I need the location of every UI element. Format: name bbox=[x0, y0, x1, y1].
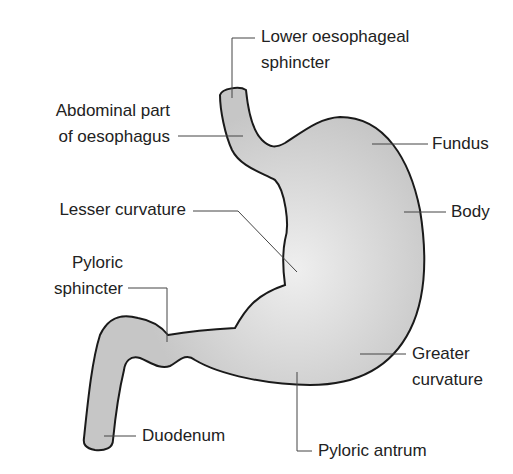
label-line: Duodenum bbox=[142, 423, 225, 449]
label-line: Abdominal part bbox=[56, 98, 170, 124]
label-line: curvature bbox=[412, 367, 483, 393]
label-line: sphincter bbox=[54, 276, 123, 302]
label-line: Lesser curvature bbox=[59, 197, 186, 223]
label-body: Body bbox=[451, 199, 490, 225]
stomach-diagram bbox=[0, 0, 513, 474]
label-lower-oesophageal-sphincter: Lower oesophageal sphincter bbox=[261, 24, 409, 76]
label-lesser-curvature: Lesser curvature bbox=[59, 197, 186, 223]
label-abdominal-oesophagus: Abdominal part of oesophagus bbox=[56, 98, 170, 150]
label-line: Lower oesophageal bbox=[261, 24, 409, 50]
label-line: Fundus bbox=[432, 131, 489, 157]
label-greater-curvature: Greater curvature bbox=[412, 341, 483, 393]
label-pyloric-antrum: Pyloric antrum bbox=[318, 438, 427, 464]
label-fundus: Fundus bbox=[432, 131, 489, 157]
label-line: Pyloric antrum bbox=[318, 438, 427, 464]
label-line: of oesophagus bbox=[56, 124, 170, 150]
label-line: Body bbox=[451, 199, 490, 225]
label-duodenum: Duodenum bbox=[142, 423, 225, 449]
label-line: sphincter bbox=[261, 50, 409, 76]
label-pyloric-sphincter: Pyloric sphincter bbox=[54, 250, 123, 302]
label-line: Greater bbox=[412, 341, 483, 367]
label-line: Pyloric bbox=[54, 250, 123, 276]
